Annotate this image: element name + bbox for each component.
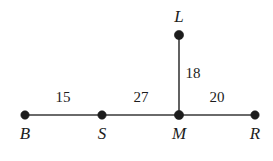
vertex-dot-l (174, 30, 183, 39)
vertex-dot-r (251, 111, 259, 119)
vertex-dot-s (98, 111, 106, 119)
geometry-diagram: 15 27 20 18 B S M R L (0, 0, 273, 161)
diagram-canvas (0, 0, 273, 161)
vertex-dot-b (21, 111, 29, 119)
vertex-dot-m (174, 110, 183, 119)
vertex-dots (21, 30, 259, 119)
edge-lines (25, 35, 255, 115)
